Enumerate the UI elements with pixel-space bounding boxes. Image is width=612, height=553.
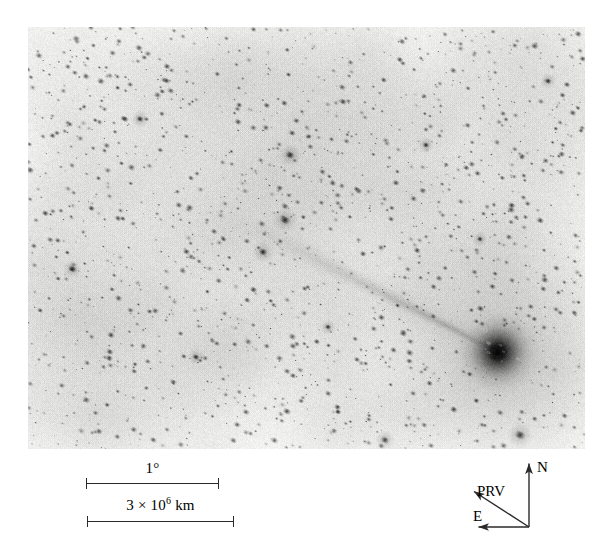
compass-arrows-icon: [455, 452, 600, 547]
orientation-compass: N E PRV: [455, 452, 600, 547]
angular-scale-cap-right: [218, 478, 219, 489]
east-label: E: [473, 509, 482, 524]
sky-image-panel: [28, 27, 585, 449]
angular-scale-cap-left: [86, 478, 87, 489]
linear-scale-mantissa: 3 × 10: [126, 497, 166, 513]
angular-scale-label: 1°: [86, 461, 219, 476]
angular-scale-bar: [86, 483, 219, 484]
prv-label: PRV: [477, 484, 505, 499]
north-label: N: [537, 460, 548, 475]
linear-scale-cap-right: [233, 516, 234, 527]
linear-scale-cap-left: [87, 516, 88, 527]
linear-scale-unit: km: [175, 497, 195, 513]
comet-figure: 1° 3 × 106 km N E PRV: [0, 0, 612, 553]
linear-scale-label: 3 × 106 km: [72, 498, 249, 513]
degree-symbol: °: [153, 460, 159, 476]
linear-scale-bar: [87, 521, 234, 522]
linear-scale-exponent: 6: [166, 495, 171, 506]
comet-field-negative-image: [28, 27, 585, 449]
